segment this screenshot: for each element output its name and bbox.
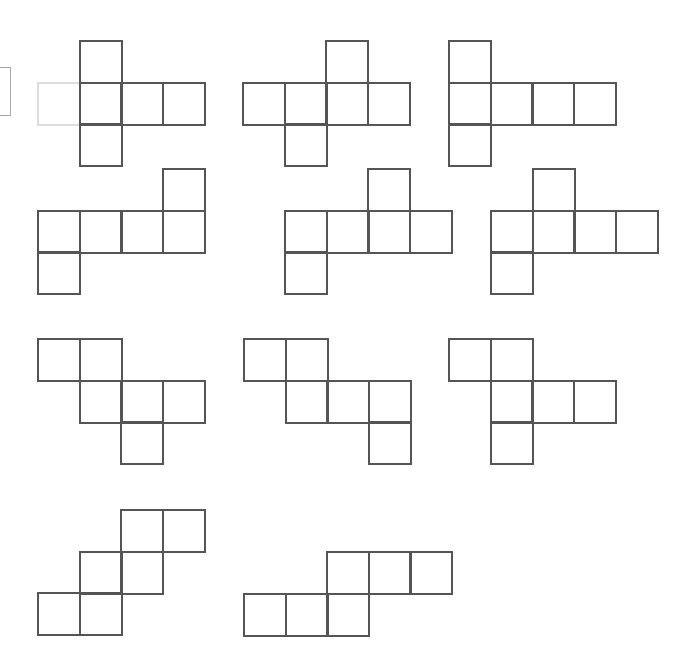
net-square <box>326 380 370 424</box>
net-square <box>242 82 286 126</box>
net-square <box>120 509 164 553</box>
net-square <box>490 210 534 254</box>
net-square <box>37 210 81 254</box>
net-square <box>285 338 329 382</box>
net-square <box>490 82 534 126</box>
net-square <box>367 82 411 126</box>
net-square <box>409 551 453 595</box>
net-square <box>162 380 206 424</box>
net-square <box>448 123 492 167</box>
net-square <box>326 210 370 254</box>
net-square <box>79 551 123 595</box>
net-square <box>284 251 328 295</box>
net-square <box>162 168 206 212</box>
net-square <box>573 210 617 254</box>
net-square <box>325 82 369 126</box>
net-square <box>285 593 329 637</box>
net-square <box>120 82 164 126</box>
net-square <box>79 82 123 126</box>
net-square <box>368 421 412 465</box>
net-square <box>79 210 123 254</box>
net-square <box>368 551 412 595</box>
net-square <box>367 210 411 254</box>
net-square <box>532 210 576 254</box>
cube-nets-diagram <box>0 0 686 662</box>
net-square <box>37 592 81 636</box>
net-square <box>490 338 534 382</box>
net-square <box>37 251 81 295</box>
net-square <box>367 168 411 212</box>
net-square <box>573 82 617 126</box>
net-square <box>531 82 575 126</box>
net-square <box>285 380 329 424</box>
net-square <box>284 82 328 126</box>
net-square <box>325 40 369 84</box>
net-square <box>120 421 164 465</box>
net-square <box>243 338 287 382</box>
net-square <box>490 421 534 465</box>
net-square <box>490 380 534 424</box>
net-square <box>409 210 453 254</box>
net-square <box>448 40 492 84</box>
net-square <box>79 380 123 424</box>
net-square <box>284 123 328 167</box>
net-square <box>79 592 123 636</box>
net-square <box>243 593 287 637</box>
net-square <box>326 551 370 595</box>
net-square <box>162 82 206 126</box>
net-square <box>326 593 370 637</box>
net-square <box>120 210 164 254</box>
net-square <box>531 380 575 424</box>
net-square <box>79 338 123 382</box>
net-square <box>368 380 412 424</box>
net-square <box>448 82 492 126</box>
net-square <box>37 338 81 382</box>
net-square <box>37 82 81 126</box>
net-square <box>573 380 617 424</box>
net-square <box>448 338 492 382</box>
net-square <box>162 509 206 553</box>
net-square <box>284 210 328 254</box>
cropped-box-edge <box>0 67 11 116</box>
net-square <box>79 123 123 167</box>
net-square <box>615 210 659 254</box>
net-square <box>490 251 534 295</box>
net-square <box>162 210 206 254</box>
net-square <box>120 551 164 595</box>
net-square <box>120 380 164 424</box>
net-square <box>79 40 123 84</box>
net-square <box>532 168 576 212</box>
